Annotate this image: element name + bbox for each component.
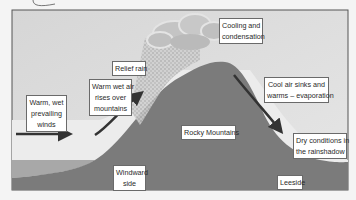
label-windward-side: Windward side (113, 165, 146, 191)
label-rocky-mountains: Rocky Mountains (181, 125, 236, 140)
label-warm-wet-winds: Warm, wet prevailing winds (26, 95, 67, 132)
label-warm-air-rises: Warm wet air rises over mountains (89, 79, 132, 116)
decorative-curve (33, 0, 55, 6)
rain-shadow-diagram: Warm, wet prevailing winds Relief rain W… (0, 0, 356, 200)
label-cool-air-sinks: Cool air sinks and warms – evaporation (264, 77, 329, 103)
label-leeside: Leeside (277, 175, 303, 190)
label-cooling-condensation: Cooling and condensation (219, 18, 263, 44)
label-dry-conditions: Dry conditions in the rainshadow (293, 133, 347, 159)
label-relief-rain: Relief rain (112, 61, 146, 76)
